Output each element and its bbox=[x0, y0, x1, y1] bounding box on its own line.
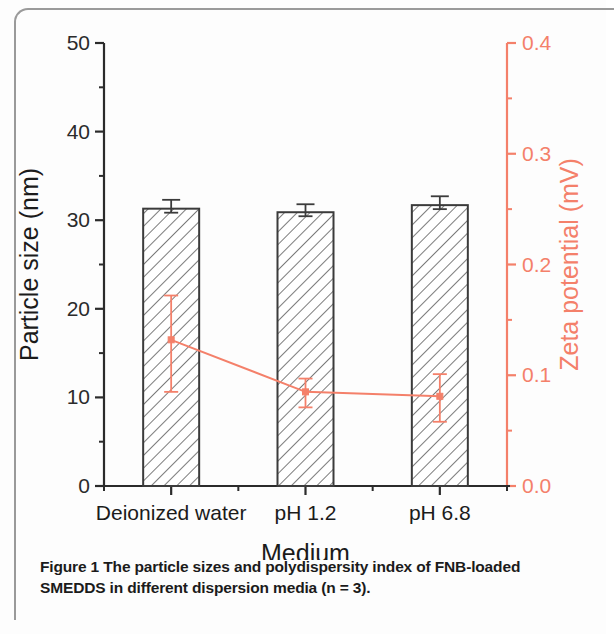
right-axis-tick-label: 0.3 bbox=[522, 142, 551, 165]
left-axis-tick-label: 20 bbox=[67, 297, 90, 320]
left-axis-tick-label: 50 bbox=[67, 31, 90, 54]
zeta-data-point bbox=[437, 393, 443, 399]
right-axis-tick-label: 0.0 bbox=[522, 474, 551, 497]
x-axis-category-label: pH 1.2 bbox=[275, 501, 337, 524]
left-axis: 01020304050 bbox=[67, 31, 104, 497]
right-axis-tick-label: 0.4 bbox=[522, 31, 552, 54]
right-axis-tick-label: 0.2 bbox=[522, 253, 551, 276]
figure-caption: Figure 1 The particle sizes and polydisp… bbox=[40, 556, 588, 599]
bar-particle-size bbox=[278, 212, 334, 486]
caption-text-1: The particle sizes and polydispersity in… bbox=[103, 558, 520, 575]
x-axis-category-label: Deionized water bbox=[96, 501, 247, 524]
zeta-data-point bbox=[168, 337, 174, 343]
right-axis-title: Zeta potential (mV) bbox=[555, 158, 583, 371]
caption-line-2: SMEDDS in different dispersion media (n … bbox=[40, 577, 588, 598]
left-axis-tick-label: 40 bbox=[67, 120, 90, 143]
bar-series-particle-size bbox=[143, 196, 468, 486]
left-axis-title: Particle size (nm) bbox=[15, 168, 43, 361]
right-axis: 0.00.10.20.30.4 bbox=[507, 31, 552, 497]
left-axis-tick-label: 0 bbox=[78, 474, 90, 497]
dual-axis-chart: 01020304050 0.00.10.20.30.4 Deionized wa… bbox=[0, 0, 606, 560]
left-axis-tick-label: 30 bbox=[67, 208, 90, 231]
left-axis-tick-label: 10 bbox=[67, 385, 90, 408]
right-axis-tick-label: 0.1 bbox=[522, 363, 551, 386]
caption-figure-number: Figure 1 bbox=[40, 558, 99, 575]
bar-particle-size bbox=[412, 205, 468, 486]
chart-plot-area: 01020304050 0.00.10.20.30.4 Deionized wa… bbox=[0, 0, 606, 560]
bottom-axis: Deionized waterpH 1.2pH 6.8 bbox=[96, 486, 510, 524]
x-axis-category-label: pH 6.8 bbox=[409, 501, 471, 524]
zeta-data-point bbox=[303, 389, 309, 395]
caption-line-1: Figure 1 The particle sizes and polydisp… bbox=[40, 556, 588, 577]
